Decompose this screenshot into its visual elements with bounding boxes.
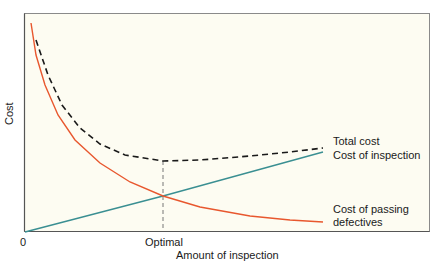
x-tick-origin: 0 — [20, 236, 26, 248]
plot-area — [25, 14, 430, 232]
label-defectives: defectives — [333, 216, 383, 228]
x-axis-label: Amount of inspection — [176, 249, 279, 261]
label-cost-of-passing: Cost of passing — [333, 203, 409, 215]
x-tick-optimal: Optimal — [145, 236, 183, 248]
label-cost-of-inspection: Cost of inspection — [333, 149, 420, 161]
y-axis-label: Cost — [3, 102, 15, 125]
label-total-cost: Total cost — [333, 135, 379, 147]
